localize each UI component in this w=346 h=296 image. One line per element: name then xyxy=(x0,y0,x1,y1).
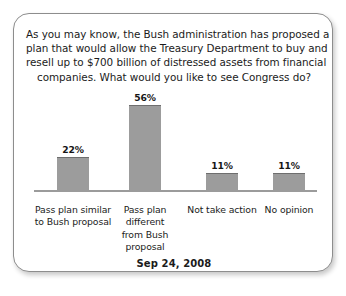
question-line-1: As you may know, the Bush administration… xyxy=(26,27,322,41)
category-label-3: No opinion xyxy=(234,204,344,216)
question-line-3: resell up to $700 billion of distressed … xyxy=(26,55,322,69)
poll-question: As you may know, the Bush administration… xyxy=(26,27,322,84)
bar-3 xyxy=(273,173,305,190)
bar-2 xyxy=(206,173,238,190)
date-caption: Sep 24, 2008 xyxy=(14,258,334,269)
bar-chart-plot-area: 22% 56% 11% 11% xyxy=(14,89,334,201)
category-labels: Pass plan similarto Bush proposal Pass p… xyxy=(14,204,334,264)
category-label-line: proposal xyxy=(90,241,200,253)
bar-value-label-3: 11% xyxy=(259,160,319,171)
category-label-line: different xyxy=(90,216,200,228)
bar-1 xyxy=(129,105,161,190)
question-line-4: companies. What would you like to see Co… xyxy=(26,70,322,84)
category-label-line: from Bush xyxy=(90,229,200,241)
bar-0 xyxy=(57,157,89,190)
bar-value-label-2: 11% xyxy=(192,160,252,171)
category-label-line: No opinion xyxy=(234,204,344,216)
poll-card: As you may know, the Bush administration… xyxy=(13,13,333,272)
poll-chart-page: As you may know, the Bush administration… xyxy=(0,0,346,296)
question-line-2: plan that would allow the Treasury Depar… xyxy=(26,41,322,55)
bar-value-label-1: 56% xyxy=(115,92,175,103)
chart-baseline-axis xyxy=(34,190,317,192)
bar-value-label-0: 22% xyxy=(43,144,103,155)
